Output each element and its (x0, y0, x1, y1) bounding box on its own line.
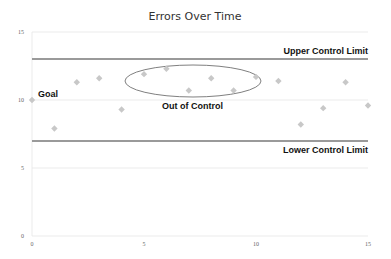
upper-control-limit-label: Upper Control Limit (284, 46, 369, 56)
x-tick-0: 0 (31, 241, 34, 247)
out-of-control-ellipse (125, 65, 261, 97)
data-point-marker (230, 87, 236, 93)
data-point-marker (342, 79, 348, 85)
gridlines (32, 32, 368, 236)
goal-label: Goal (38, 89, 58, 99)
x-tick-5: 5 (143, 241, 146, 247)
control-chart: Errors Over Time 15 10 5 0 0 5 10 15 Goa… (0, 0, 391, 259)
data-point-marker (74, 79, 80, 85)
data-point-marker (298, 121, 304, 127)
data-point-marker (29, 97, 35, 103)
y-tick-0: 0 (21, 233, 24, 239)
data-point-marker (118, 106, 124, 112)
data-point-marker (96, 75, 102, 81)
x-axis-ticks: 0 5 10 15 (31, 241, 372, 247)
data-point-marker (51, 125, 57, 131)
lower-control-limit-label: Lower Control Limit (283, 145, 368, 155)
x-tick-15: 15 (365, 241, 371, 247)
y-tick-15: 15 (18, 29, 24, 35)
data-point-marker (320, 105, 326, 111)
data-point-marker (186, 87, 192, 93)
data-point-marker (253, 74, 259, 80)
data-point-marker (275, 78, 281, 84)
data-point-marker (365, 102, 371, 108)
x-tick-10: 10 (253, 241, 259, 247)
data-point-marker (141, 71, 147, 77)
y-tick-10: 10 (18, 97, 24, 103)
data-point-marker (208, 75, 214, 81)
y-axis-ticks: 15 10 5 0 (18, 29, 24, 239)
y-tick-5: 5 (21, 165, 24, 171)
out-of-control-label: Out of Control (162, 101, 223, 111)
data-points (29, 66, 371, 132)
chart-title: Errors Over Time (149, 10, 242, 23)
